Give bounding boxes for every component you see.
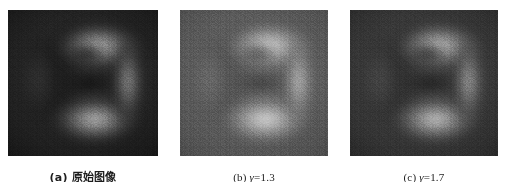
film-grain-fine-b [180, 10, 328, 156]
caption-c-value: =1.7 [424, 171, 445, 182]
radiograph-image-b [180, 10, 328, 156]
caption-c-prefix: (c) [403, 171, 419, 182]
caption-b-value: =1.3 [254, 171, 275, 182]
film-grain-fine-c [350, 10, 498, 156]
image-b [180, 10, 328, 156]
image-c [350, 10, 498, 156]
figure-panel-c: (c) γ=1.7 [350, 10, 498, 156]
caption-c: (c) γ=1.7 [350, 170, 498, 182]
figure-panel-a: (a) 原始图像 [8, 10, 158, 156]
radiograph-image-a [8, 10, 158, 156]
image-a [8, 10, 158, 156]
caption-a: (a) 原始图像 [8, 170, 158, 182]
caption-a-text: (a) 原始图像 [50, 171, 117, 182]
panel-row: (a) 原始图像 (b) γ=1.3 [0, 0, 508, 182]
caption-b: (b) γ=1.3 [180, 170, 328, 182]
radiograph-image-c [350, 10, 498, 156]
caption-b-prefix: (b) [233, 171, 249, 182]
film-grain-fine-a [8, 10, 158, 156]
figure-gamma-correction: (a) 原始图像 (b) γ=1.3 [0, 0, 508, 182]
figure-panel-b: (b) γ=1.3 [180, 10, 328, 156]
